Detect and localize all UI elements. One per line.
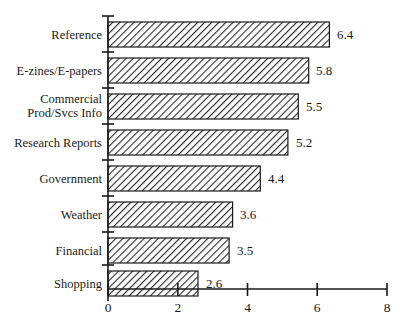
bar-reference [108,22,329,47]
value-label-research-reports: 5.2 [296,135,312,150]
bar-weather [108,202,233,227]
bar-financial [108,238,229,263]
bar-shopping [108,271,198,296]
value-label-reference: 6.4 [337,27,354,42]
value-label-ezines-epapers: 5.8 [316,63,332,78]
category-label-reference: Reference [51,28,102,42]
value-label-shopping: 2.6 [206,276,223,291]
category-label-weather: Weather [61,208,103,222]
x-tick-label-2: 2 [174,300,181,315]
value-label-government: 4.4 [268,171,285,186]
bar-research-reports [108,130,288,155]
value-label-commercial-prod-svcs-info: 5.5 [306,99,322,114]
category-label-financial: Financial [55,244,102,258]
value-label-weather: 3.6 [240,207,257,222]
category-label-commercial-line2: Prod/Svcs Info [27,106,102,120]
x-tick-label-6: 6 [314,300,321,315]
bar-commercial-prod-svcs-info [108,94,298,119]
chart-canvas: Reference E-zines/E-papers Commercial Pr… [0,0,404,317]
x-tick-label-4: 4 [244,300,251,315]
category-label-shopping: Shopping [54,277,103,291]
category-label-commercial-line1: Commercial [40,92,102,106]
bar-ezines-epapers [108,58,309,83]
x-tick-label-8: 8 [384,300,391,315]
category-label-research-reports: Research Reports [14,136,102,150]
bar-government [108,166,260,191]
category-label-ezines-epapers: E-zines/E-papers [17,64,103,78]
category-label-government: Government [40,172,103,186]
bar-chart: Reference E-zines/E-papers Commercial Pr… [0,0,404,317]
value-label-financial: 3.5 [237,243,253,258]
x-tick-label-0: 0 [105,300,112,315]
